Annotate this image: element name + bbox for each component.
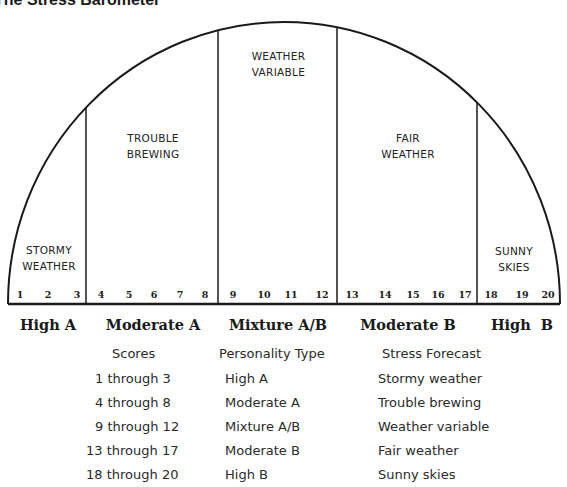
cell-personality: High B [225,467,268,482]
score-number: 3 [74,289,81,300]
zone-label-sunny-skies: SUNNY SKIES [479,243,549,275]
cell-forecast: Weather variable [378,419,489,434]
cell-personality: Mixture A/B [225,419,300,434]
header-stress-forecast: Stress Forecast [382,346,481,361]
score-number: 14 [378,289,391,300]
type-label-moderate-a: Moderate A [106,316,200,333]
header-scores: Scores [112,346,155,361]
score-number: 13 [345,289,358,300]
score-number: 5 [126,289,133,300]
score-number: 10 [257,289,270,300]
zone-label-trouble-brewing: TROUBLE BREWING [88,130,218,162]
cell-forecast: Stormy weather [378,371,482,386]
score-number: 8 [202,289,209,300]
score-number: 1 [17,289,24,300]
zone-label-weather-variable: WEATHER VARIABLE [220,48,337,80]
score-number: 17 [458,289,471,300]
type-label-moderate-b: Moderate B [360,316,455,333]
score-number: 11 [284,289,297,300]
cell-forecast: Fair weather [378,443,459,458]
zone-label-stormy-weather: STORMY WEATHER [14,242,84,274]
score-number: 2 [45,289,52,300]
type-label-high-b: High B [491,316,553,333]
score-number: 12 [315,289,328,300]
cell-forecast: Trouble brewing [378,395,481,410]
score-number: 6 [151,289,158,300]
cell-personality: Moderate A [225,395,300,410]
score-number: 20 [541,289,554,300]
cell-scores: 1 through 3 [95,371,171,386]
cell-forecast: Sunny skies [378,467,455,482]
cell-scores: 18 through 20 [86,467,178,482]
score-number: 19 [515,289,528,300]
score-number: 16 [431,289,444,300]
score-number: 18 [484,289,497,300]
cell-personality: High A [225,371,268,386]
score-number: 4 [98,289,105,300]
type-label-high-a: High A [20,316,76,333]
cell-scores: 4 through 8 [95,395,171,410]
header-personality-type: Personality Type [219,346,325,361]
score-number: 9 [230,289,237,300]
score-number: 7 [177,289,184,300]
cell-scores: 9 through 12 [95,419,179,434]
cell-scores: 13 through 17 [86,443,178,458]
cell-personality: Moderate B [225,443,300,458]
zone-label-fair-weather: FAIR WEATHER [339,130,477,162]
type-label-mixture-ab: Mixture A/B [229,316,327,333]
score-number: 15 [406,289,419,300]
